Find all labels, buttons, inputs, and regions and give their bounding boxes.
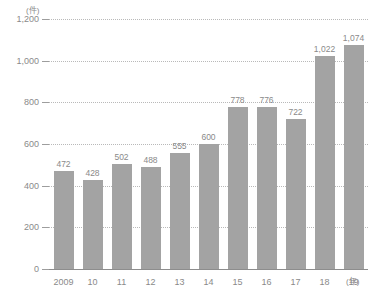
y-axis-tick-label: 200: [0, 223, 39, 232]
bar-slot: 778: [225, 19, 251, 269]
bar-slot: 428: [80, 19, 106, 269]
y-axis-tick-mark: [42, 227, 49, 228]
bar-value-label: 488: [134, 156, 168, 165]
y-axis-tick-label: 600: [0, 140, 39, 149]
bar-value-label: 472: [47, 160, 81, 169]
bar-value-label: 428: [76, 169, 110, 178]
y-axis-tick-label: 1,200: [0, 15, 39, 24]
bar: [141, 167, 161, 269]
y-axis-tick-label: 1,000: [0, 57, 39, 66]
bar-slot: 600: [196, 19, 222, 269]
y-axis-tick-mark: [42, 61, 49, 62]
y-axis-tick-mark: [42, 144, 49, 145]
bar-value-label: 776: [250, 96, 284, 105]
bar-value-label: 1,074: [337, 34, 371, 43]
y-axis-tick-mark: [42, 269, 49, 270]
bar-slot: 722: [283, 19, 309, 269]
axis-baseline: [49, 269, 368, 270]
bar: [228, 107, 248, 269]
bar-series: 4724285024885556007787767221,0221,074: [49, 19, 368, 269]
bar-value-label: 555: [163, 142, 197, 151]
bar-slot: 502: [109, 19, 135, 269]
bar: [257, 107, 277, 269]
bar-slot: 488: [138, 19, 164, 269]
bar: [344, 45, 364, 269]
y-axis-tick-mark: [42, 186, 49, 187]
bar: [286, 119, 306, 269]
bar-value-label: 600: [192, 133, 226, 142]
bar-slot: 776: [254, 19, 280, 269]
bar-slot: 555: [167, 19, 193, 269]
bar: [315, 56, 335, 269]
bar-slot: 1,022: [312, 19, 338, 269]
bar: [83, 180, 103, 269]
y-axis-tick-mark: [42, 19, 49, 20]
bar: [54, 171, 74, 269]
bar-slot: 472: [51, 19, 77, 269]
y-axis-tick-label: 0: [0, 265, 39, 274]
bar: [112, 164, 132, 269]
bar-chart: (件) 02004006008001,0001,200 472428502488…: [0, 0, 375, 301]
y-axis-tick-mark: [42, 102, 49, 103]
y-axis-tick-label: 800: [0, 98, 39, 107]
bar-value-label: 722: [279, 108, 313, 117]
bar-value-label: 1,022: [308, 45, 342, 54]
bar: [170, 153, 190, 269]
x-axis-unit-label: (年): [346, 277, 359, 287]
plot-area: 02004006008001,0001,200 4724285024885556…: [49, 19, 368, 269]
bar-slot: 1,074: [341, 19, 367, 269]
bar: [199, 144, 219, 269]
y-axis-tick-label: 400: [0, 182, 39, 191]
